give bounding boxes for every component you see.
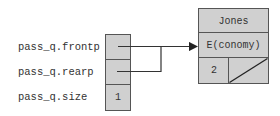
- rearp-connector: [117, 47, 161, 72]
- null-slash-icon: [230, 59, 268, 83]
- pointer-wires: [0, 0, 280, 116]
